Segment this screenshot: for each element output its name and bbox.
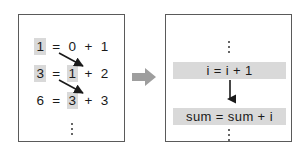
vertical-ellipsis-icon [166, 129, 291, 144]
vertical-ellipsis-icon [166, 41, 291, 56]
statement-accumulate-label: sum = sum + i [186, 109, 273, 124]
trace-result: 3 [34, 65, 46, 82]
vertical-ellipsis-icon [19, 123, 124, 138]
statement-increment: i = i + 1 [173, 62, 286, 79]
carry-arrow-icon [57, 78, 97, 98]
trace-right-operand: 2 [99, 65, 111, 82]
carry-arrow-icon [57, 51, 97, 71]
trace-result: 6 [34, 92, 46, 109]
right-block-arrow-icon [132, 68, 156, 86]
statement-accumulate: sum = sum + i [173, 108, 286, 125]
trace-right-operand: 3 [99, 92, 111, 109]
diagram-canvas: 1 = 0 + 1 3 = 1 + 2 6 = 3 + 3 [0, 0, 306, 155]
statement-increment-label: i = i + 1 [206, 63, 252, 78]
concrete-trace-panel: 1 = 0 + 1 3 = 1 + 2 6 = 3 + 3 [18, 14, 125, 142]
generalized-statements-panel: i = i + 1 sum = sum + i [165, 14, 292, 142]
trace-result: 1 [34, 38, 46, 55]
down-arrow-icon [224, 79, 236, 107]
trace-right-operand: 1 [99, 38, 111, 55]
flow-arrow-wrapper [166, 79, 293, 107]
